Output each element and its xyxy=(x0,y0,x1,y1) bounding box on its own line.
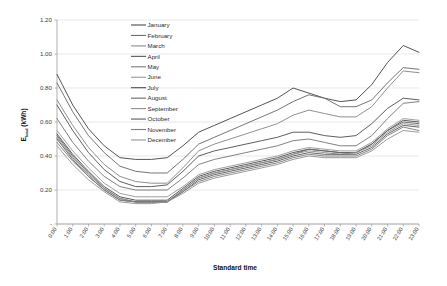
legend-label-november[interactable]: November xyxy=(148,126,177,133)
x-axis-tick-label: 20:00 xyxy=(360,226,373,241)
x-axis-tick-label: 19:00 xyxy=(344,226,357,241)
y-axis-tick-label: 1.00 xyxy=(40,50,53,57)
axes xyxy=(55,20,420,227)
x-axis-tick-label: 0:00 xyxy=(47,226,58,238)
y-axis-tick-label: 0.40 xyxy=(40,152,53,159)
x-axis-tick-label: 13:00 xyxy=(250,226,263,241)
x-axis-tick-label: 22:00 xyxy=(391,226,404,241)
y-axis-title: Eload (kWh) xyxy=(20,108,29,141)
y-axis-tick-label: 0.80 xyxy=(40,84,53,91)
legend-label-september[interactable]: September xyxy=(148,105,178,112)
x-axis-tick-label: 6:00 xyxy=(141,226,152,238)
y-axis-tick-label: 0.60 xyxy=(40,118,53,125)
y-axis-title-unit: (kWh) xyxy=(20,108,28,128)
x-axis-tick-label: 18:00 xyxy=(328,226,341,241)
x-axis-tick-labels: 0:001:002:003:004:005:006:007:008:009:00… xyxy=(47,226,420,241)
series-line-february xyxy=(57,68,419,173)
x-axis-tick-label: 8:00 xyxy=(173,226,184,238)
x-axis-tick-label: 9:00 xyxy=(189,226,200,238)
x-axis-tick-label: 3:00 xyxy=(94,226,105,238)
x-axis-tick-label: 21:00 xyxy=(376,226,389,241)
x-axis-tick-label: 12:00 xyxy=(234,226,247,241)
legend-label-april[interactable]: April xyxy=(148,53,160,60)
x-axis-tick-label: 5:00 xyxy=(126,226,137,238)
legend: JanuaryFebruaryMarchAprilMayJuneJulyAugu… xyxy=(131,21,178,143)
x-axis-tick-label: 1:00 xyxy=(63,226,74,238)
x-axis-tick-label: 16:00 xyxy=(297,226,310,241)
legend-label-may[interactable]: May xyxy=(148,63,161,70)
legend-label-december[interactable]: December xyxy=(148,136,177,143)
svg-text:Eload (kWh): Eload (kWh) xyxy=(20,108,29,141)
line-chart: 0:001:002:003:004:005:006:007:008:009:00… xyxy=(0,0,447,286)
x-axis-tick-label: 2:00 xyxy=(78,226,89,238)
legend-label-january[interactable]: January xyxy=(148,21,171,28)
x-axis-title: Standard time xyxy=(213,264,257,271)
series-line-june xyxy=(57,119,419,197)
x-axis-tick-label: 4:00 xyxy=(110,226,121,238)
legend-label-march[interactable]: March xyxy=(148,42,166,49)
y-axis-tick-label: 1.20 xyxy=(40,16,53,23)
legend-label-october[interactable]: October xyxy=(148,115,170,122)
x-axis-tick-label: 10:00 xyxy=(203,226,216,241)
legend-label-february[interactable]: February xyxy=(148,32,174,39)
x-axis-tick-label: 14:00 xyxy=(266,226,279,241)
y-axis-tick-label: 0.20 xyxy=(40,186,53,193)
series-lines xyxy=(57,46,419,204)
legend-label-august[interactable]: August xyxy=(148,94,168,101)
y-axis-tick-labels: -0.200.400.600.801.001.20 xyxy=(40,16,53,227)
x-axis-tick-label: 15:00 xyxy=(281,226,294,241)
x-axis-tick-label: 11:00 xyxy=(219,226,231,241)
legend-label-june[interactable]: June xyxy=(148,73,162,80)
y-axis-tick-label: - xyxy=(50,220,52,227)
x-axis-tick-label: 7:00 xyxy=(157,226,168,238)
x-axis-tick-label: 23:00 xyxy=(407,226,420,241)
chart-container: 0:001:002:003:004:005:006:007:008:009:00… xyxy=(0,0,447,286)
x-axis-tick-label: 17:00 xyxy=(313,226,326,241)
legend-label-july[interactable]: July xyxy=(148,84,160,91)
